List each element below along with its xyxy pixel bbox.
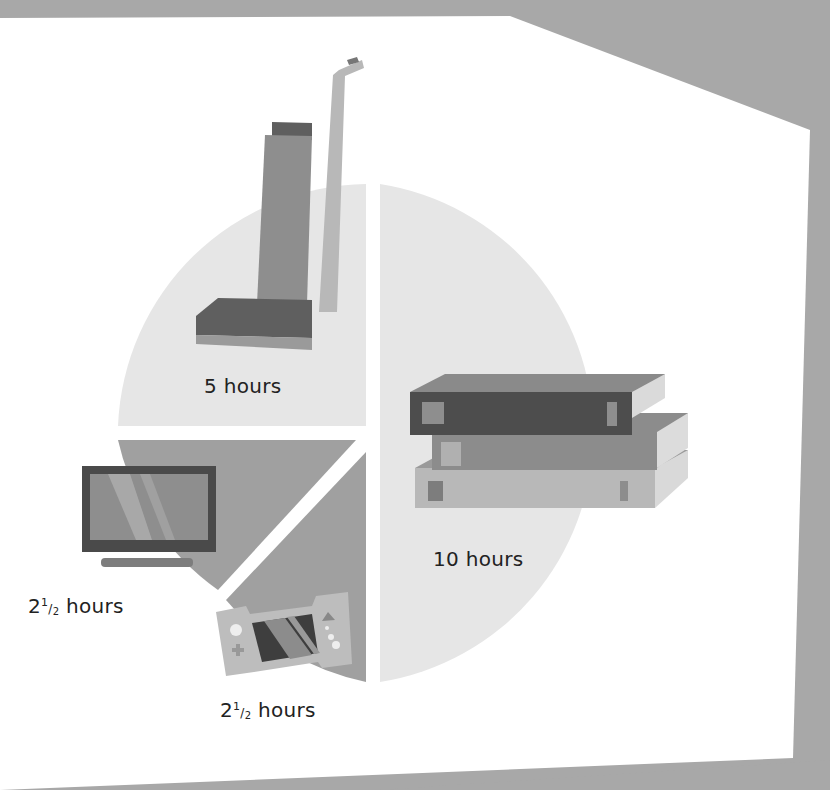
fraction-numerator: 1: [41, 596, 48, 609]
label-value: 5: [204, 374, 217, 398]
slice-label-tv: 21/2 hours: [28, 594, 124, 618]
pie-chart: [0, 0, 830, 790]
label-unit: hours: [459, 547, 523, 571]
label-value: 10: [433, 547, 459, 571]
photographed-page: 5 hours 10 hours 21/2 hours 21/2 hours: [0, 0, 830, 790]
slice-label-games: 21/2 hours: [220, 698, 316, 722]
label-unit: hours: [59, 594, 123, 618]
fraction-numerator: 1: [233, 700, 240, 713]
label-value: 2: [28, 594, 41, 618]
fraction-denominator: 2: [245, 710, 252, 721]
label-value: 2: [220, 698, 233, 722]
television-icon: [82, 466, 216, 567]
label-unit: hours: [251, 698, 315, 722]
label-unit: hours: [217, 374, 281, 398]
slice-label-reading: 10 hours: [433, 547, 523, 571]
book-stack-icon: [410, 374, 688, 508]
label-fraction: 1/2: [233, 706, 251, 720]
label-fraction: 1/2: [41, 602, 59, 616]
fraction-denominator: 2: [53, 606, 60, 617]
slice-label-vacuuming: 5 hours: [204, 374, 281, 398]
